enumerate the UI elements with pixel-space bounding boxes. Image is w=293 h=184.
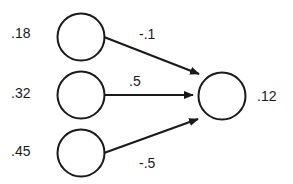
connection-arrow-1 [104, 37, 199, 74]
output-node [199, 73, 246, 120]
input-node-1 [58, 14, 105, 61]
output-activation-label: .12 [257, 88, 277, 104]
input-activation-label-1: .18 [11, 25, 31, 41]
input-activation-label-2: .32 [11, 85, 31, 101]
weight-label-1: -.1 [139, 26, 156, 42]
neural-network-diagram: .18 .32 .45 -.1 .5 -.5 .12 [0, 0, 293, 184]
input-node-3 [58, 130, 105, 177]
connection-arrow-3 [104, 119, 198, 153]
input-activation-label-3: .45 [11, 143, 31, 159]
weight-label-3: -.5 [139, 155, 156, 171]
input-node-2 [58, 72, 105, 119]
weight-label-2: .5 [129, 73, 141, 89]
